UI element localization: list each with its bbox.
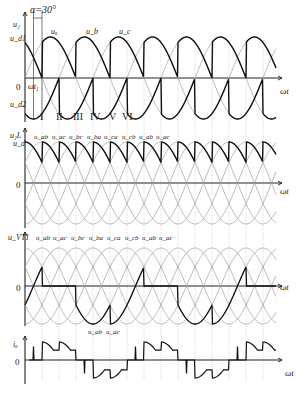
p4-xlabel: ωt <box>285 368 294 378</box>
curve-label-ub: u_b <box>86 27 98 36</box>
segment-label: u_ca <box>107 234 121 242</box>
segment-label: u_ab <box>34 133 48 141</box>
p2-ylabel-sub: u_d <box>13 139 25 148</box>
p3-bottom-label: u_ab <box>88 328 102 336</box>
curve-label-uc: u_c <box>119 27 131 36</box>
p1-wt1: ωt₁ <box>28 82 39 91</box>
p4-origin: 0 <box>15 357 20 367</box>
p2-origin: 0 <box>16 180 21 190</box>
segment-label: u_cb <box>125 234 139 242</box>
p1-origin: 0 <box>16 82 21 92</box>
labels-layer: α=30° u₂ u_d1 u_d2 0 ωt₁ ωt uₐ u_b u_c I… <box>0 0 305 393</box>
p1-xlabel: ωt <box>280 86 289 96</box>
interval-II: II <box>56 111 63 122</box>
waveform-figure: α=30° u₂ u_d1 u_d2 0 ωt₁ ωt uₐ u_b u_c I… <box>0 0 305 393</box>
p1-ylabel-lower: u_d2 <box>10 100 26 109</box>
interval-IV: IV <box>90 111 101 122</box>
alpha-label: α=30° <box>30 4 56 15</box>
segment-label: u_bc <box>71 234 85 242</box>
p1-ylabel-upper: u_d1 <box>10 34 26 43</box>
p4-ylabel: iₐ <box>13 340 18 349</box>
segment-label: u_ac <box>156 133 170 141</box>
p3-ylabel: u_VT1 <box>8 233 29 242</box>
segment-label: u_ba <box>87 133 101 141</box>
segment-label: u_ca <box>104 133 118 141</box>
segment-label: u_ab <box>139 133 153 141</box>
p1-ylabel: u₂ <box>13 20 20 29</box>
segment-label: u_ba <box>89 234 103 242</box>
interval-VI: VI <box>122 111 133 122</box>
segment-label: u_ac <box>53 234 67 242</box>
p2-xlabel: ωt <box>280 186 289 196</box>
segment-label: u_ac <box>52 133 66 141</box>
interval-I: I <box>40 111 43 122</box>
segment-label: u_ac <box>159 234 173 242</box>
p3-bottom-label: u_ac <box>106 328 120 336</box>
segment-label: u_cb <box>122 133 136 141</box>
p3-origin: 0 <box>16 283 21 293</box>
segment-label: u_ab <box>142 234 156 242</box>
segment-label: u_ab <box>36 234 50 242</box>
curve-label-ua: uₐ <box>51 27 57 36</box>
interval-V: V <box>109 111 116 122</box>
p3-xlabel: ωt <box>280 282 289 292</box>
segment-label: u_bc <box>69 133 83 141</box>
interval-III: III <box>73 111 83 122</box>
